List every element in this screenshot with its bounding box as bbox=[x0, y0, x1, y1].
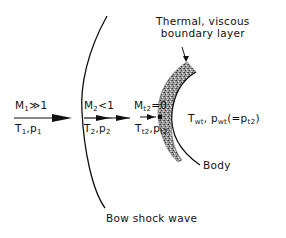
region1-mach: M1≫1 bbox=[15, 100, 47, 113]
boundary-layer-label: Thermal, viscous boundary layer bbox=[156, 16, 250, 38]
region2-state: T2,p2 bbox=[84, 123, 111, 136]
region1-state: T1,p1 bbox=[15, 123, 42, 136]
wall-conditions: Twt, pwt(=pt2) bbox=[188, 113, 260, 126]
stagnation-point bbox=[158, 115, 163, 120]
freestream-arrow-head bbox=[52, 114, 72, 122]
stagnation-state: Tt2,pt2 bbox=[135, 123, 168, 136]
body-label: Body bbox=[203, 160, 231, 171]
post-shock-arrow-head bbox=[96, 115, 110, 121]
bow-shock-label: Bow shock wave bbox=[106, 213, 197, 224]
stagnation-mach: Mt2=0 bbox=[134, 100, 167, 113]
region2-mach: M2<1 bbox=[84, 100, 114, 113]
